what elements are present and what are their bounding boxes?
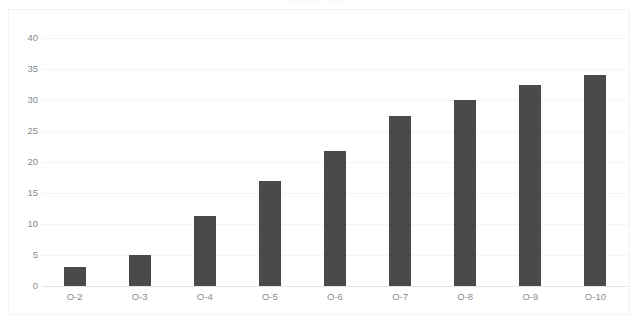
bar[interactable] [129, 255, 151, 286]
x-axis-tick-label: O-3 [107, 290, 172, 304]
bar[interactable] [259, 181, 281, 286]
bar-chart-figure: Chart Title 0510152025303540 O-2O-3O-4O-… [0, 0, 638, 332]
y-axis-tick-label: 0 [4, 281, 38, 291]
y-axis: 0510152025303540 [0, 38, 38, 286]
bar[interactable] [324, 151, 346, 286]
bar-slot [433, 38, 498, 286]
y-axis-tick-label: 25 [4, 126, 38, 136]
chart-title: Chart Title [0, 0, 638, 3]
footer-divider [10, 314, 628, 315]
y-axis-tick-label: 20 [4, 157, 38, 167]
bar-slot [42, 38, 107, 286]
x-axis-tick-label: O-10 [563, 290, 628, 304]
bar[interactable] [519, 85, 541, 287]
bar-slot [237, 38, 302, 286]
bar-slot [302, 38, 367, 286]
bar-slot [498, 38, 563, 286]
x-axis-tick-label: O-5 [237, 290, 302, 304]
bar-slot [368, 38, 433, 286]
bar[interactable] [454, 100, 476, 286]
bar-slot [107, 38, 172, 286]
bar[interactable] [194, 216, 216, 286]
y-axis-tick-label: 15 [4, 188, 38, 198]
y-axis-tick-label: 40 [4, 33, 38, 43]
plot-area [42, 38, 628, 286]
x-axis: O-2O-3O-4O-5O-6O-7O-8O-9O-10 [42, 290, 628, 306]
bar[interactable] [64, 267, 86, 286]
x-axis-tick-label: O-8 [433, 290, 498, 304]
y-axis-tick-label: 35 [4, 64, 38, 74]
x-axis-tick-label: O-6 [302, 290, 367, 304]
x-axis-tick-label: O-2 [42, 290, 107, 304]
x-axis-tick-label: O-7 [368, 290, 433, 304]
x-axis-tick-label: O-4 [172, 290, 237, 304]
bar-slot [563, 38, 628, 286]
y-axis-tick-label: 30 [4, 95, 38, 105]
bar[interactable] [389, 116, 411, 287]
y-axis-tick-label: 5 [4, 250, 38, 260]
y-axis-tick-label: 10 [4, 219, 38, 229]
bar[interactable] [584, 75, 606, 286]
bar-slot [172, 38, 237, 286]
gridline [42, 286, 628, 287]
x-axis-tick-label: O-9 [498, 290, 563, 304]
